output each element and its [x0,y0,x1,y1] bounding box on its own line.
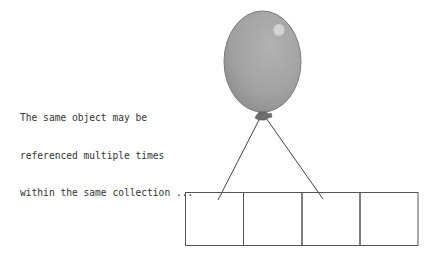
collection-slot-3 [302,193,360,246]
diagram-canvas [0,0,438,262]
balloon-highlight [274,24,285,36]
balloon-knot [255,112,272,120]
reference-string-slot-1 [218,118,260,200]
collection-slot-4 [360,193,418,246]
collection-slot-1 [186,193,244,246]
balloon-icon [224,11,301,120]
collection-array [186,193,419,246]
reference-string-slot-3 [266,118,323,199]
collection-slot-2 [244,193,303,246]
